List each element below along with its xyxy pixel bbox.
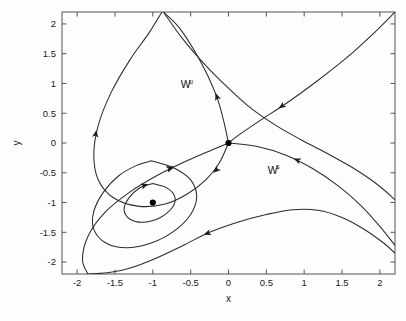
stable-manifold-label-superscript: s: [276, 163, 280, 170]
x-tick-label: -1.5: [107, 277, 123, 288]
y-tick-label: -1: [48, 197, 56, 208]
x-tick-label: 1: [302, 277, 307, 288]
x-tick-label: 0.5: [260, 277, 273, 288]
y-tick-label: 1.5: [43, 48, 56, 59]
y-tick-label: 0.5: [43, 108, 56, 119]
y-tick-label: -0.5: [40, 167, 56, 178]
x-tick-label: 2: [377, 277, 382, 288]
fixed-point-center: [150, 199, 156, 205]
x-tick-label: -1: [149, 277, 157, 288]
y-tick-label: 1: [51, 78, 56, 89]
fixed-point-saddle: [225, 140, 231, 146]
y-tick-label: 0: [51, 137, 56, 148]
x-tick-label: -2: [73, 277, 81, 288]
x-tick-label: 0: [226, 277, 231, 288]
figure-background: [0, 0, 406, 321]
x-axis-label: x: [226, 293, 231, 304]
x-tick-label: 1.5: [335, 277, 348, 288]
unstable-manifold-label-superscript: u: [189, 78, 193, 85]
y-tick-label: -2: [48, 256, 56, 267]
phase-portrait-figure: -2-1.5-1-0.500.511.5221.510.50-0.5-1-1.5…: [0, 0, 406, 321]
y-tick-label: -1.5: [40, 227, 56, 238]
y-axis-label: y: [11, 141, 22, 146]
x-tick-label: -0.5: [182, 277, 198, 288]
y-tick-label: 2: [51, 18, 56, 29]
